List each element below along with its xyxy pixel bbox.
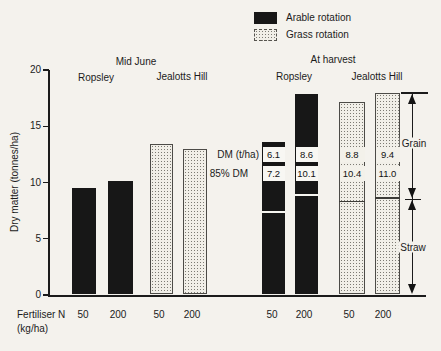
figure-canvas: Arable rotation Grass rotation Mid June … — [0, 0, 441, 351]
grain-85pct-value: 11.0 — [376, 166, 400, 181]
y-tick — [43, 238, 49, 239]
grain-dm-value: 8.8 — [340, 147, 365, 162]
bar-harvest-ropsley-200 — [295, 94, 318, 294]
site-label-ropsley-midjune: Ropsley — [78, 72, 114, 84]
arable-rotation-swatch-icon — [254, 12, 277, 24]
x-axis-title-line2: (kg/ha) — [17, 323, 48, 335]
x-axis-title-line1: Fertiliser N — [17, 309, 65, 321]
straw-arrow-bottom-bar — [399, 295, 426, 297]
x-tick-label: 50 — [343, 309, 354, 321]
y-tick-label: 5 — [15, 233, 41, 245]
grain-dm-value: 6.1 — [263, 147, 285, 162]
y-tick-label: 20 — [15, 64, 41, 76]
x-tick-label: 200 — [375, 309, 392, 321]
y-tick-label: 15 — [15, 120, 41, 132]
grass-rotation-swatch-icon — [254, 29, 277, 41]
legend-item-arable: Arable rotation — [254, 12, 351, 24]
arrow-down-icon — [408, 284, 416, 294]
header-mid-june: Mid June — [116, 56, 157, 68]
site-label-jealotts-midjune: Jealotts Hill — [156, 71, 207, 83]
x-tick-label: 200 — [296, 309, 313, 321]
grain-straw-divider — [339, 201, 365, 202]
x-tick-label: 200 — [184, 309, 201, 321]
y-tick — [43, 182, 49, 183]
x-tick-label: 50 — [266, 309, 277, 321]
y-tick-label: 0 — [15, 289, 41, 301]
bar-harvest-jealotts-50 — [339, 102, 365, 295]
grain-straw-divider — [375, 197, 400, 198]
grain-85pct-value: 10.1 — [296, 166, 318, 181]
straw-label: Straw — [398, 242, 428, 253]
bar-harvest-jealotts-200 — [375, 93, 400, 295]
bar-midjune-ropsley-50 — [72, 188, 96, 294]
x-axis-line — [48, 295, 409, 297]
arrow-up-icon — [408, 200, 416, 210]
grain-label: Grain — [400, 138, 428, 149]
grain-85pct-value: 7.2 — [263, 166, 285, 181]
row-label-dm: DM (t/ha) — [178, 147, 259, 162]
site-label-jealotts-harvest: Jealotts Hill — [351, 71, 402, 83]
y-tick — [43, 126, 49, 127]
bar-midjune-jealotts-50 — [150, 144, 173, 294]
arrow-down-icon — [408, 188, 416, 198]
bar-harvest-ropsley-50 — [262, 142, 285, 294]
row-label-85dm: 85% DM — [178, 166, 248, 181]
y-tick-label: 10 — [15, 177, 41, 189]
site-label-ropsley-harvest: Ropsley — [276, 71, 312, 83]
grain-straw-divider — [262, 211, 285, 213]
grain-straw-divider — [295, 194, 318, 196]
x-tick-label: 50 — [77, 309, 88, 321]
arrow-up-icon — [408, 94, 416, 104]
x-tick-label: 50 — [153, 309, 164, 321]
legend-label: Grass rotation — [286, 29, 349, 41]
legend-item-grass: Grass rotation — [254, 29, 351, 41]
legend-label: Arable rotation — [286, 12, 351, 24]
grain-dm-value: 8.6 — [296, 147, 318, 162]
header-at-harvest: At harvest — [310, 54, 355, 66]
x-tick-label: 200 — [110, 309, 127, 321]
grain-85pct-value: 10.4 — [340, 166, 365, 181]
bar-midjune-ropsley-200 — [108, 181, 133, 294]
grain-dm-value: 9.4 — [376, 147, 400, 162]
legend: Arable rotation Grass rotation — [254, 12, 351, 41]
y-tick — [43, 69, 49, 70]
